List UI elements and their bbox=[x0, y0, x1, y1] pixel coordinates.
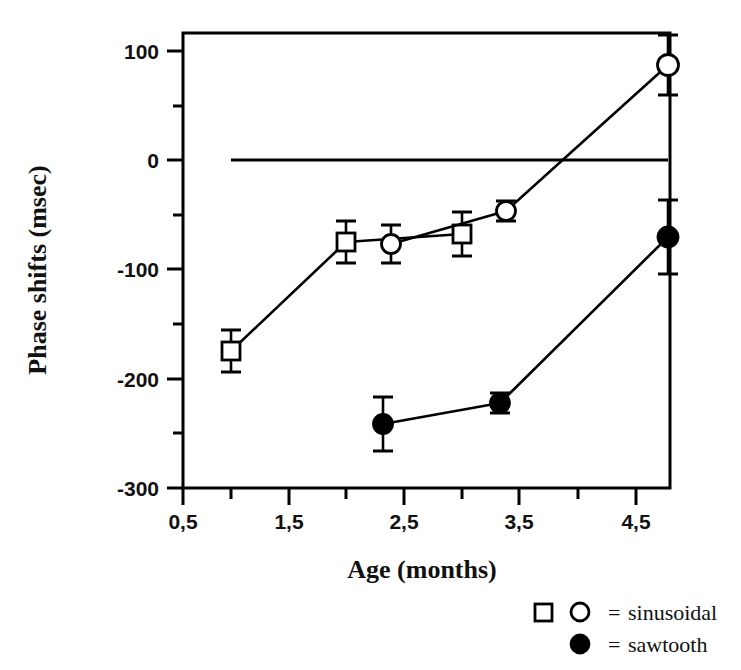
data-point-marker-filled-circle bbox=[491, 394, 510, 413]
y-tick-label-100: 100 bbox=[124, 40, 159, 63]
x-axis-title: Age (months) bbox=[347, 555, 497, 584]
data-point-marker-square bbox=[337, 233, 355, 251]
legend-row-sinusoidal: = sinusoidal bbox=[535, 600, 717, 625]
data-point-marker-circle bbox=[497, 202, 516, 221]
x-axis-ticks bbox=[183, 488, 636, 505]
x-tick-label-3-5: 3,5 bbox=[504, 510, 534, 533]
series-sinusoidal-square bbox=[221, 212, 472, 372]
y-tick-label-neg200: -200 bbox=[117, 368, 159, 391]
legend-open-circle-icon bbox=[571, 603, 589, 621]
y-tick-label-0: 0 bbox=[147, 149, 159, 172]
legend-filled-circle-icon bbox=[571, 635, 589, 653]
data-point-marker-square bbox=[453, 225, 471, 243]
legend-equals-sinusoidal: = bbox=[608, 600, 620, 625]
legend-label-sinusoidal: sinusoidal bbox=[628, 600, 717, 625]
series-sawtooth-line bbox=[383, 237, 668, 424]
series-circle-errorbars bbox=[381, 35, 678, 263]
data-point-marker-circle bbox=[382, 235, 401, 254]
phase-shift-chart-figure: 100 0 -100 -200 -300 0,5 1,5 2,5 3,5 bbox=[0, 0, 741, 670]
x-tick-label-0-5: 0,5 bbox=[168, 510, 198, 533]
chart-svg: 100 0 -100 -200 -300 0,5 1,5 2,5 3,5 bbox=[0, 0, 741, 670]
plot-frame bbox=[183, 33, 670, 488]
x-tick-label-4-5: 4,5 bbox=[621, 510, 651, 533]
y-tick-label-neg100: -100 bbox=[117, 258, 159, 281]
legend-equals-sawtooth: = bbox=[608, 632, 620, 657]
data-point-marker-circle bbox=[658, 55, 679, 76]
series-circle-line bbox=[391, 65, 668, 244]
x-axis-tick-labels: 0,5 1,5 2,5 3,5 4,5 bbox=[168, 510, 651, 533]
data-point-marker-square bbox=[222, 342, 240, 360]
y-axis-tick-labels: 100 0 -100 -200 -300 bbox=[117, 40, 159, 500]
legend-row-sawtooth: = sawtooth bbox=[571, 632, 707, 657]
x-tick-label-2-5: 2,5 bbox=[389, 510, 419, 533]
legend: = sinusoidal = sawtooth bbox=[535, 600, 717, 657]
y-axis-ticks bbox=[167, 51, 183, 488]
y-axis-title: Phase shifts (msec) bbox=[23, 165, 52, 374]
legend-open-square-icon bbox=[535, 604, 552, 621]
data-point-marker-filled-circle bbox=[374, 415, 393, 434]
data-point-marker-filled-circle bbox=[658, 227, 678, 247]
x-tick-label-1-5: 1,5 bbox=[274, 510, 304, 533]
series-sinusoidal-circle bbox=[381, 35, 679, 263]
y-tick-label-neg300: -300 bbox=[117, 477, 159, 500]
legend-label-sawtooth: sawtooth bbox=[628, 632, 707, 657]
